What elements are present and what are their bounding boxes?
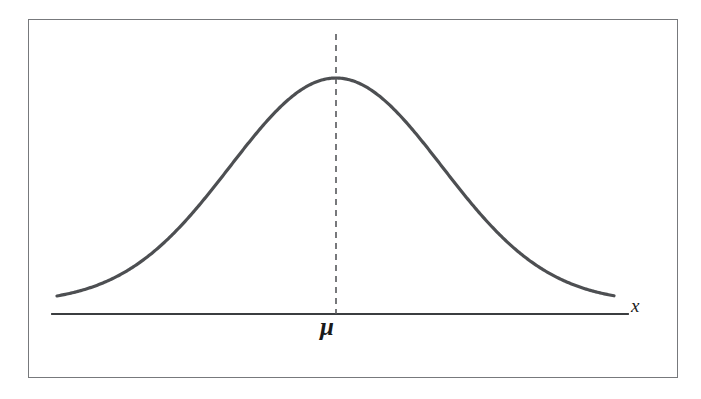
figure-border	[28, 19, 678, 378]
mean-symbol-label: μ	[320, 314, 334, 339]
figure-canvas: μ x	[0, 0, 701, 399]
x-axis-symbol-label: x	[631, 296, 639, 315]
